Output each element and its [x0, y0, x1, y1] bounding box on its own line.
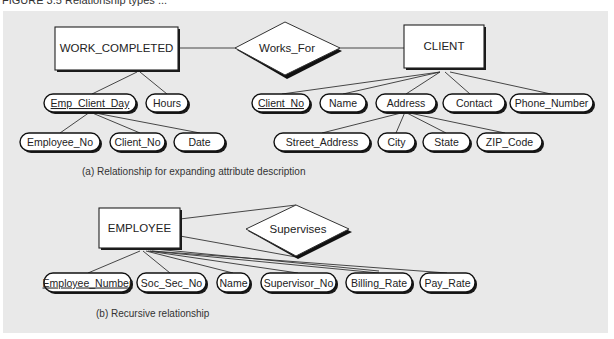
attribute-client-no[interactable]: Client_No: [110, 133, 167, 153]
attribute-label: Date: [188, 136, 210, 148]
attribute-label: Employee_No: [27, 136, 93, 148]
attribute-zip-code[interactable]: ZIP_Code: [477, 133, 544, 153]
attribute-employee-no[interactable]: Employee_No: [20, 133, 102, 153]
attribute-label: Name: [219, 277, 247, 289]
attribute-label: Client_No: [114, 136, 160, 148]
attribute-label: Pay_Rate: [424, 277, 470, 289]
entity-label: EMPLOYEE: [108, 222, 172, 234]
attribute-client-no-key[interactable]: Client_No: [252, 94, 312, 114]
entity-client[interactable]: CLIENT: [404, 25, 486, 70]
attribute-supervisor-no[interactable]: Supervisor_No: [261, 273, 338, 294]
er-diagram: WORK_COMPLETED Works_For CLIENT Emp_Clie…: [0, 0, 614, 339]
attribute-label: Soc_Sec_No: [141, 277, 202, 289]
attribute-city[interactable]: City: [378, 133, 417, 153]
attribute-label: Hours: [153, 97, 181, 109]
attribute-label: Billing_Rate: [351, 277, 407, 289]
relationship-label: Supervises: [270, 223, 327, 235]
entity-work-completed[interactable]: WORK_COMPLETED: [55, 27, 180, 72]
attribute-label: Address: [387, 97, 426, 109]
attribute-phone-number[interactable]: Phone_Number: [510, 94, 595, 114]
attribute-address[interactable]: Address: [376, 94, 438, 114]
attribute-billing-rate[interactable]: Billing_Rate: [346, 273, 414, 294]
caption-part-b: (b) Recursive relationship: [96, 308, 210, 319]
attribute-label: Phone_Number: [515, 97, 589, 109]
attribute-label: ZIP_Code: [486, 136, 533, 148]
attribute-employee-number[interactable]: Employee_Number: [43, 273, 133, 294]
attribute-label: State: [434, 136, 459, 148]
attribute-hours[interactable]: Hours: [146, 94, 190, 114]
attribute-label: Employee_Number: [43, 277, 133, 289]
relationship-label: Works_For: [259, 42, 315, 54]
attribute-label: Client_No: [258, 97, 304, 109]
attribute-label: Street_Address: [286, 136, 358, 148]
attribute-name-employee[interactable]: Name: [217, 273, 252, 294]
attribute-name[interactable]: Name: [320, 94, 368, 114]
attribute-state[interactable]: State: [423, 133, 472, 153]
attribute-label: Emp_Client_Day: [51, 97, 131, 109]
attribute-date[interactable]: Date: [174, 133, 227, 153]
attribute-street-address[interactable]: Street_Address: [274, 133, 372, 153]
attribute-contact[interactable]: Contact: [443, 94, 507, 114]
entity-label: CLIENT: [424, 40, 465, 52]
attribute-soc-sec-no[interactable]: Soc_Sec_No: [137, 273, 208, 294]
attribute-emp-client-day[interactable]: Emp_Client_Day: [44, 94, 138, 114]
attribute-label: Name: [329, 97, 357, 109]
caption-part-a: (a) Relationship for expanding attribute…: [82, 166, 305, 177]
attribute-pay-rate[interactable]: Pay_Rate: [420, 273, 477, 294]
attribute-label: Contact: [456, 97, 492, 109]
entity-employee[interactable]: EMPLOYEE: [99, 208, 182, 250]
entity-label: WORK_COMPLETED: [60, 42, 174, 54]
attribute-label: City: [387, 136, 406, 148]
attribute-label: Supervisor_No: [264, 277, 334, 289]
